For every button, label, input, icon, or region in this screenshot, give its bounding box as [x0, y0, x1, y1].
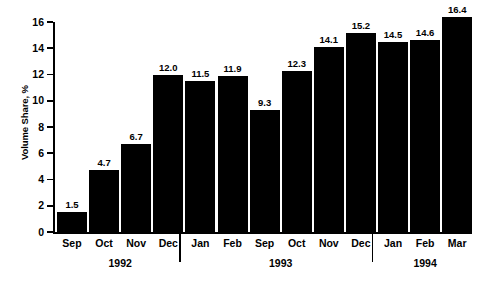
bar[interactable]	[410, 40, 440, 232]
x-tick-label-month: Mar	[436, 238, 478, 249]
y-tick-label: 4	[14, 174, 44, 185]
year-group-label: 1994	[395, 258, 455, 269]
bar-value-label: 15.2	[340, 21, 382, 31]
year-group-label: 1992	[90, 258, 150, 269]
y-tick-mark	[47, 47, 53, 49]
bar-value-label: 4.7	[83, 158, 125, 168]
bar[interactable]	[57, 212, 87, 232]
bar[interactable]	[314, 47, 344, 232]
bar[interactable]	[378, 42, 408, 232]
bar-value-label: 14.6	[404, 28, 446, 38]
y-tick-label: 10	[14, 95, 44, 106]
x-axis-line	[53, 232, 472, 234]
bar[interactable]	[89, 170, 119, 232]
bar-value-label: 9.3	[244, 98, 286, 108]
bar[interactable]	[153, 75, 183, 233]
bar[interactable]	[250, 110, 280, 232]
bar[interactable]	[442, 17, 472, 232]
y-tick-mark	[47, 179, 53, 181]
y-tick-label: 2	[14, 200, 44, 211]
y-tick-label: 16	[14, 17, 44, 28]
y-tick-label: 0	[14, 227, 44, 238]
bar-value-label: 16.4	[436, 5, 478, 15]
bar[interactable]	[121, 144, 151, 232]
bar-value-label: 6.7	[115, 132, 157, 142]
bar-value-label: 1.5	[51, 200, 93, 210]
y-tick-mark	[47, 100, 53, 102]
y-tick-label: 14	[14, 43, 44, 54]
y-tick-label: 6	[14, 148, 44, 159]
bar-chart: Volume Share, % 1614121086420 1.5Sep4.7O…	[0, 0, 484, 282]
year-group-label: 1993	[251, 258, 311, 269]
bar-value-label: 12.3	[276, 59, 318, 69]
bar[interactable]	[346, 33, 376, 233]
bar[interactable]	[185, 81, 215, 232]
y-tick-label: 8	[14, 122, 44, 133]
y-tick-mark	[47, 126, 53, 128]
y-tick-mark	[47, 152, 53, 154]
y-tick-label: 12	[14, 69, 44, 80]
bar-value-label: 14.1	[308, 35, 350, 45]
year-group-separator	[372, 233, 373, 262]
y-tick-mark	[47, 21, 53, 23]
bar-value-label: 11.9	[212, 64, 254, 74]
y-tick-mark	[47, 74, 53, 76]
bar[interactable]	[282, 71, 312, 232]
year-group-separator	[179, 233, 180, 262]
